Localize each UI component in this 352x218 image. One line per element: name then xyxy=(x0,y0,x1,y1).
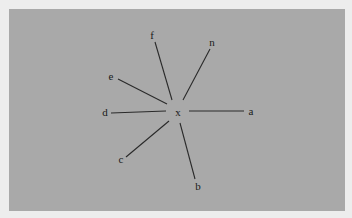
spoke-line-e xyxy=(118,79,167,104)
node-label-c: c xyxy=(119,153,124,165)
spoke-line-f xyxy=(155,42,172,100)
node-label-a: a xyxy=(249,105,254,117)
node-label-b: b xyxy=(195,180,201,192)
node-label-d: d xyxy=(102,106,108,118)
spoke-line-n xyxy=(183,49,210,100)
center-node-label: x xyxy=(175,106,181,118)
spoke-line-b xyxy=(180,123,195,179)
node-label-f: f xyxy=(150,29,154,41)
node-label-e: e xyxy=(109,70,114,82)
spoke-line-d xyxy=(111,111,166,113)
spoke-line-c xyxy=(126,121,169,157)
star-diagram: abcdefn x xyxy=(0,0,352,218)
node-label-n: n xyxy=(209,36,215,48)
